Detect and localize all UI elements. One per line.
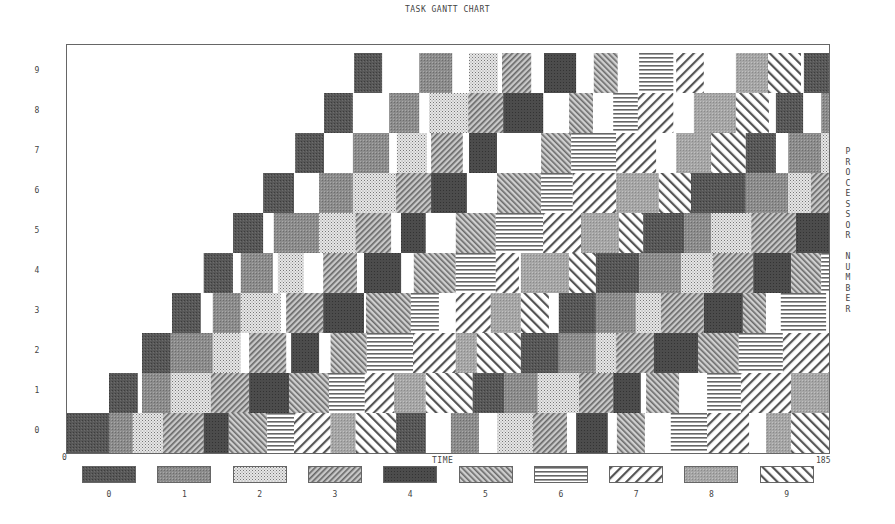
task-block-0 <box>142 333 171 373</box>
task-block-9 <box>768 53 801 93</box>
task-block-5 <box>289 373 329 413</box>
legend-swatch-3 <box>308 466 362 483</box>
task-block-8 <box>581 213 619 253</box>
task-block-8 <box>491 293 521 333</box>
task-block-6 <box>739 333 783 373</box>
task-block-8 <box>736 53 768 93</box>
task-block-7 <box>365 373 394 413</box>
task-block-9 <box>659 173 691 213</box>
task-block-4 <box>364 253 401 293</box>
task-block-1 <box>241 253 273 293</box>
task-block-6 <box>456 253 496 293</box>
task-block-4 <box>503 93 543 133</box>
task-block-4 <box>576 413 608 453</box>
task-block-0 <box>233 213 263 253</box>
task-block-3 <box>502 53 531 93</box>
task-block-8 <box>791 373 829 413</box>
legend-label-9: 9 <box>760 490 814 499</box>
task-block-1 <box>788 133 821 173</box>
task-block-9 <box>619 213 643 253</box>
task-block-7 <box>543 213 581 253</box>
task-block-3 <box>163 413 204 453</box>
task-block-9 <box>711 133 746 173</box>
task-block-2 <box>497 413 533 453</box>
task-block-5 <box>366 293 411 333</box>
task-block-0 <box>559 293 596 333</box>
task-block-2 <box>469 53 498 93</box>
task-block-1 <box>596 293 636 333</box>
task-block-0 <box>804 53 829 93</box>
y-tick-4: 4 <box>30 266 44 275</box>
task-block-1 <box>451 413 479 453</box>
task-block-6 <box>411 293 439 333</box>
task-block-4 <box>753 253 791 293</box>
task-block-4 <box>469 133 497 173</box>
task-block-1 <box>274 213 319 253</box>
task-block-3 <box>211 373 249 413</box>
task-block-0 <box>295 133 324 173</box>
task-block-1 <box>213 293 241 333</box>
task-block-6 <box>781 293 826 333</box>
task-block-8 <box>616 173 659 213</box>
task-block-4 <box>249 373 289 413</box>
task-block-6 <box>821 253 829 293</box>
task-block-1 <box>171 333 213 373</box>
task-block-5 <box>541 133 571 173</box>
legend-swatch-0 <box>82 466 136 483</box>
task-block-3 <box>713 253 753 293</box>
task-block-1 <box>389 93 419 133</box>
chart-title: TASK GANTT CHART <box>0 5 895 14</box>
legend-label-6: 6 <box>534 490 588 499</box>
task-block-3 <box>468 93 503 133</box>
task-block-4 <box>796 213 829 253</box>
task-block-4 <box>613 373 641 413</box>
task-block-7 <box>741 373 791 413</box>
task-block-2 <box>241 293 281 333</box>
task-block-5 <box>791 253 821 293</box>
task-block-1 <box>746 173 788 213</box>
task-block-0 <box>396 413 426 453</box>
task-block-9 <box>569 253 596 293</box>
task-block-2 <box>133 413 163 453</box>
y-tick-6: 6 <box>30 186 44 195</box>
legend-swatch-8 <box>684 466 738 483</box>
task-block-9 <box>521 293 549 333</box>
legend-label-7: 7 <box>609 490 663 499</box>
y-tick-7: 7 <box>30 146 44 155</box>
task-block-4 <box>204 413 229 453</box>
task-block-1 <box>821 93 829 133</box>
task-block-6 <box>367 333 413 373</box>
legend-label-0: 0 <box>82 490 136 499</box>
legend-label-5: 5 <box>459 490 513 499</box>
task-block-5 <box>331 333 367 373</box>
legend-swatch-2 <box>233 466 287 483</box>
legend-label-4: 4 <box>383 490 437 499</box>
task-block-8 <box>456 333 477 373</box>
task-block-7 <box>456 293 491 333</box>
task-block-8 <box>331 413 356 453</box>
task-block-4 <box>431 173 467 213</box>
task-block-6 <box>541 173 573 213</box>
task-block-9 <box>791 413 829 453</box>
task-block-4 <box>544 53 576 93</box>
legend-label-1: 1 <box>157 490 211 499</box>
task-block-1 <box>419 53 452 93</box>
task-block-2 <box>171 373 211 413</box>
task-block-0 <box>776 93 803 133</box>
y-tick-3: 3 <box>30 306 44 315</box>
task-block-2 <box>788 173 811 213</box>
task-block-2 <box>319 213 356 253</box>
task-block-0 <box>204 253 233 293</box>
task-block-0 <box>67 413 109 453</box>
task-block-2 <box>278 253 304 293</box>
task-block-3 <box>579 373 613 413</box>
legend-swatch-7 <box>609 466 663 483</box>
task-block-1 <box>353 133 389 173</box>
task-block-0 <box>521 333 559 373</box>
task-block-3 <box>356 213 391 253</box>
task-block-2 <box>681 253 713 293</box>
task-block-3 <box>751 213 796 253</box>
y-tick-2: 2 <box>30 346 44 355</box>
task-block-0 <box>109 373 138 413</box>
y-tick-5: 5 <box>30 226 44 235</box>
